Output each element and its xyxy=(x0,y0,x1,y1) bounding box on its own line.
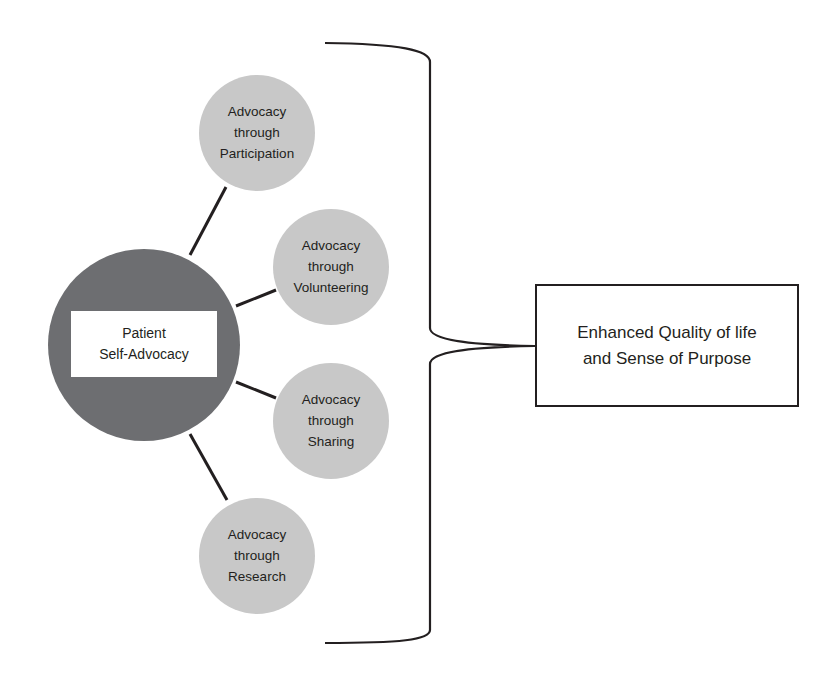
connector-research xyxy=(190,434,227,500)
branch-label-line: through xyxy=(199,545,315,566)
core-label-box: Patient Self-Advocacy xyxy=(71,311,217,377)
branch-label-line: Advocacy xyxy=(273,235,389,256)
branch-label-line: Advocacy xyxy=(273,389,389,410)
outcome-label: Enhanced Quality of life and Sense of Pu… xyxy=(577,320,757,372)
branch-label-line: Sharing xyxy=(273,431,389,452)
branch-label-line: through xyxy=(199,122,315,143)
branch-label-line: Research xyxy=(199,566,315,587)
branch-label-volunteering: Advocacy through Volunteering xyxy=(273,235,389,298)
outcome-label-line1: Enhanced Quality of life xyxy=(577,320,757,346)
branch-label-line: Volunteering xyxy=(273,277,389,298)
core-label-line2: Self-Advocacy xyxy=(99,344,188,365)
branch-label-participation: Advocacy through Participation xyxy=(199,101,315,164)
connector-participation xyxy=(190,187,226,255)
branch-label-line: through xyxy=(273,256,389,277)
branch-label-line: Advocacy xyxy=(199,524,315,545)
outcome-box: Enhanced Quality of life and Sense of Pu… xyxy=(535,284,799,407)
connector-sharing xyxy=(236,382,276,398)
connector-volunteering xyxy=(236,290,276,306)
branch-label-research: Advocacy through Research xyxy=(199,524,315,587)
curly-bracket xyxy=(325,43,535,643)
branch-label-line: Participation xyxy=(199,143,315,164)
branch-label-sharing: Advocacy through Sharing xyxy=(273,389,389,452)
branch-label-line: Advocacy xyxy=(199,101,315,122)
core-label-line1: Patient xyxy=(99,323,188,344)
core-label: Patient Self-Advocacy xyxy=(99,323,188,365)
outcome-label-line2: and Sense of Purpose xyxy=(577,346,757,372)
branch-label-line: through xyxy=(273,410,389,431)
